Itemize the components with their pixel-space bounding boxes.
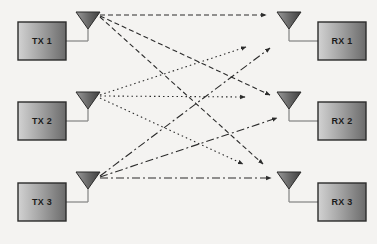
rx-node-rx1 — [277, 12, 366, 60]
channel-link-h13 — [100, 17, 263, 164]
tx-node-tx1 — [18, 12, 100, 60]
mimo-channel-diagram: TX 1TX 2TX 3RX 1RX 2RX 3 — [0, 0, 377, 244]
antenna-dish — [277, 172, 301, 189]
antenna-tx3 — [76, 172, 100, 189]
tx-box-tx2[interactable] — [18, 102, 66, 140]
nodes-group — [18, 12, 366, 221]
channel-link-h32 — [100, 118, 277, 177]
tx-node-tx3 — [18, 172, 100, 221]
rx-node-rx2 — [277, 92, 366, 140]
rx-box-rx1[interactable] — [318, 22, 366, 60]
channel-link-h23 — [100, 98, 243, 164]
tx-box-tx1[interactable] — [18, 22, 66, 60]
antenna-dish — [76, 92, 100, 109]
antenna-tx1 — [76, 12, 100, 29]
channel-link-h12 — [100, 16, 270, 95]
antenna-dish — [277, 92, 301, 109]
channel-link-h22 — [100, 96, 245, 97]
antenna-dish — [277, 12, 301, 29]
channel-link-h21 — [100, 47, 246, 95]
channel-canvas — [0, 0, 377, 244]
rx-node-rx3 — [277, 172, 366, 221]
tx-node-tx2 — [18, 92, 100, 140]
antenna-rx2 — [277, 92, 301, 109]
antenna-dish — [76, 172, 100, 189]
antenna-rx3 — [277, 172, 301, 189]
antenna-rx1 — [277, 12, 301, 29]
channel-link-h31 — [100, 48, 270, 176]
channel-links-group — [100, 15, 277, 178]
tx-box-tx3[interactable] — [18, 183, 66, 221]
antenna-dish — [76, 12, 100, 29]
rx-box-rx2[interactable] — [318, 102, 366, 140]
antenna-tx2 — [76, 92, 100, 109]
rx-box-rx3[interactable] — [318, 183, 366, 221]
